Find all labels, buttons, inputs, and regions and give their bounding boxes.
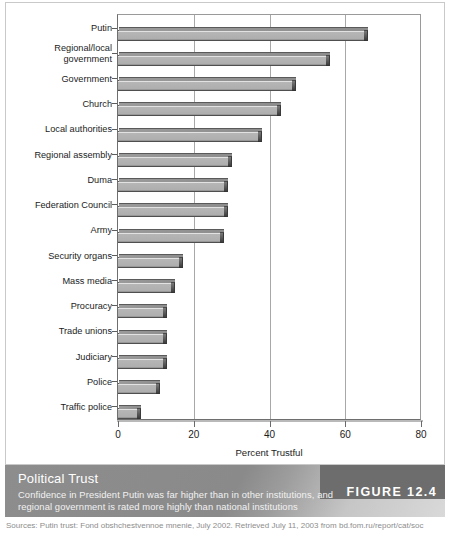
y-axis-label: Local authorities	[8, 124, 112, 135]
y-axis-tick	[112, 230, 117, 231]
y-axis-tick	[112, 78, 117, 79]
y-axis-tick	[112, 305, 117, 306]
y-axis-label: Church	[8, 99, 112, 110]
y-axis-label: Putin	[8, 23, 112, 34]
figure-title: Political Trust	[18, 471, 98, 486]
y-axis-tick	[112, 331, 117, 332]
y-axis-tick	[112, 356, 117, 357]
bar	[118, 55, 326, 66]
chart-card: PutinRegional/local governmentGovernment…	[5, 2, 445, 465]
y-axis-label: Federation Council	[8, 200, 112, 211]
x-axis-tick-0	[118, 421, 119, 427]
x-axis-tick-label-80: 80	[401, 429, 441, 440]
y-axis-label: Security organs	[8, 251, 112, 262]
x-axis-tick-label-60: 60	[325, 429, 365, 440]
bar	[118, 156, 228, 167]
bar	[118, 131, 258, 142]
y-axis-label: Mass media	[8, 276, 112, 287]
y-axis-label: Government	[8, 74, 112, 85]
x-axis-tick-80	[421, 421, 422, 427]
y-axis-tick	[112, 103, 117, 104]
y-axis-label: Regional/local government	[8, 43, 112, 64]
figure-caption-band: FIGURE 12.4 Political Trust Confidence i…	[5, 465, 445, 517]
bar	[118, 333, 163, 344]
bar	[118, 206, 224, 217]
bar	[118, 257, 179, 268]
figure-subtitle-line-2: regional government is rated more highly…	[18, 501, 298, 512]
bar	[118, 30, 364, 41]
figure-number-label: FIGURE 12.4	[347, 485, 437, 499]
figure-source-note: Sources: Putin trust: Fond obshchestvenn…	[6, 521, 451, 530]
bar	[118, 358, 163, 369]
y-axis-tick	[112, 406, 117, 407]
x-axis-tick-60	[345, 421, 346, 427]
y-axis-tick	[112, 179, 117, 180]
bar	[118, 105, 277, 116]
y-axis-label: Police	[8, 377, 112, 388]
y-axis-tick	[112, 28, 117, 29]
y-axis-label: Duma	[8, 175, 112, 186]
bar	[118, 80, 292, 91]
x-axis-tick-40	[270, 421, 271, 427]
y-axis-label: Regional assembly	[8, 150, 112, 161]
bar	[118, 282, 171, 293]
y-axis-tick	[112, 204, 117, 205]
x-axis-tick-label-20: 20	[174, 429, 214, 440]
bar	[118, 408, 137, 419]
y-axis-label: Army	[8, 225, 112, 236]
y-axis-label: Judiciary	[8, 352, 112, 363]
y-axis-tick	[112, 280, 117, 281]
y-axis-label: Traffic police	[8, 402, 112, 413]
bar	[118, 383, 156, 394]
x-axis-tick-label-40: 40	[250, 429, 290, 440]
y-axis-tick	[112, 154, 117, 155]
bar	[118, 307, 163, 318]
y-axis-tick	[112, 129, 117, 130]
x-axis-title: Percent Trustful	[117, 447, 421, 458]
y-axis-label: Trade unions	[8, 326, 112, 337]
figure-page: PutinRegional/local governmentGovernment…	[0, 0, 451, 534]
y-axis-label: Procuracy	[8, 301, 112, 312]
bar	[118, 232, 220, 243]
y-axis-labels: PutinRegional/local governmentGovernment…	[6, 15, 112, 419]
y-axis-tick	[112, 381, 117, 382]
x-axis-tick-20	[194, 421, 195, 427]
y-axis-tick	[112, 255, 117, 256]
y-axis-tick	[112, 53, 117, 54]
figure-subtitle-line-1: Confidence in President Putin was far hi…	[18, 489, 333, 500]
bar	[118, 181, 224, 192]
bar-series	[118, 15, 421, 419]
x-axis-tick-label-0: 0	[98, 429, 138, 440]
